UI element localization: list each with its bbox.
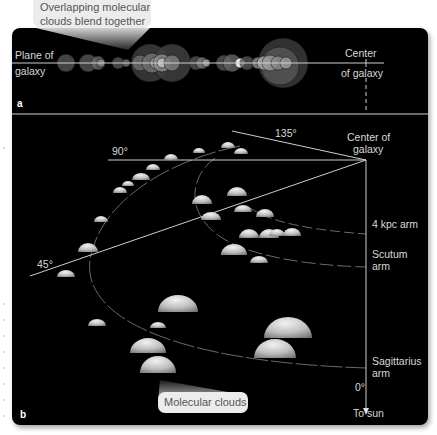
center-label-a-line1: Center [345, 47, 377, 59]
scutum-arm-label-line2: arm [372, 260, 390, 272]
plane-label-line1: Plane of [15, 49, 54, 61]
angle-135-label: 135° [275, 127, 297, 139]
sagittarius-arm-label-line2: arm [372, 367, 390, 379]
panel-a-letter: a [17, 98, 23, 109]
galaxy-molecular-clouds-diagram: Plane of galaxy Center of galaxy a Overl… [0, 0, 437, 435]
scutum-arm-label-line1: Scutum [372, 248, 408, 260]
center-label-b-line1: Center of [347, 131, 390, 143]
panel-b-letter: b [20, 409, 26, 420]
plane-label-line2: galaxy [15, 65, 46, 77]
callout-molecular-clouds: Molecular clouds [158, 392, 248, 413]
callout-top-line1: Overlapping molecular [40, 1, 150, 13]
sagittarius-arm-label-line1: Sagittarius [372, 355, 422, 367]
angle-0-label: 0° [355, 381, 365, 393]
margin-dots [3, 147, 4, 416]
kpc4-arm-label: 4 kpc arm [372, 218, 418, 230]
callout-bottom-text: Molecular clouds [164, 396, 247, 408]
callout-top-line2: clouds blend together [40, 15, 146, 27]
to-sun-label: To sun [353, 407, 384, 419]
center-label-b-line2: galaxy [353, 143, 384, 155]
angle-45-label: 45° [37, 258, 53, 270]
center-label-a-line2: of galaxy [341, 67, 384, 79]
angle-90-label: 90° [112, 145, 128, 157]
callout-overlapping-clouds: Overlapping molecular clouds blend toget… [33, 0, 151, 28]
